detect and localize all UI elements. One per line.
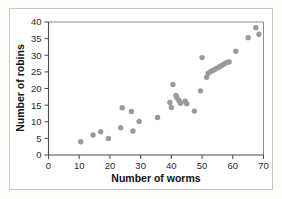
data-point bbox=[167, 100, 172, 105]
data-point bbox=[98, 129, 103, 134]
data-point bbox=[178, 100, 183, 105]
scatter-plot-figure: 010203040506070 0510152025303540 Number … bbox=[0, 0, 282, 199]
x-tick-label: 30 bbox=[135, 160, 146, 171]
x-tick-label: 70 bbox=[258, 160, 269, 171]
data-point bbox=[198, 88, 203, 93]
x-tick-label: 60 bbox=[227, 160, 238, 171]
y-tick-label: 5 bbox=[36, 133, 41, 144]
y-tick-label: 0 bbox=[36, 149, 41, 160]
data-point bbox=[155, 115, 160, 120]
y-tick-label: 10 bbox=[31, 116, 42, 127]
y-tick-label: 20 bbox=[31, 83, 42, 94]
data-point bbox=[253, 25, 258, 30]
x-tick-labels: 010203040506070 bbox=[46, 160, 269, 171]
x-tick-label: 20 bbox=[105, 160, 116, 171]
data-point bbox=[118, 125, 123, 130]
axis-ticks bbox=[45, 22, 264, 159]
y-tick-label: 40 bbox=[31, 16, 42, 27]
plot-frame bbox=[49, 22, 264, 155]
y-tick-label: 25 bbox=[31, 66, 42, 77]
data-point bbox=[170, 82, 175, 87]
data-point bbox=[192, 108, 197, 113]
data-point bbox=[245, 35, 250, 40]
x-tick-label: 0 bbox=[46, 160, 51, 171]
data-point bbox=[90, 132, 95, 137]
y-tick-label: 30 bbox=[31, 50, 42, 61]
y-tick-labels: 0510152025303540 bbox=[31, 16, 42, 160]
plot-canvas: 010203040506070 0510152025303540 Number … bbox=[0, 0, 282, 199]
x-tick-label: 40 bbox=[166, 160, 177, 171]
y-tick-label: 15 bbox=[31, 100, 42, 111]
y-tick-label: 35 bbox=[31, 33, 42, 44]
data-point bbox=[78, 139, 83, 144]
data-point bbox=[136, 119, 141, 124]
data-point bbox=[130, 128, 135, 133]
x-tick-label: 10 bbox=[74, 160, 85, 171]
data-point bbox=[226, 59, 231, 64]
y-axis-title: Number of robins bbox=[14, 44, 26, 132]
data-points bbox=[78, 25, 262, 144]
data-point bbox=[233, 49, 238, 54]
data-point bbox=[256, 32, 261, 37]
data-point bbox=[184, 101, 189, 106]
data-point bbox=[106, 136, 111, 141]
data-point bbox=[120, 105, 125, 110]
x-tick-label: 50 bbox=[197, 160, 208, 171]
x-axis-title: Number of worms bbox=[111, 172, 200, 184]
data-point bbox=[199, 55, 204, 60]
data-point bbox=[129, 109, 134, 114]
data-point bbox=[169, 105, 174, 110]
